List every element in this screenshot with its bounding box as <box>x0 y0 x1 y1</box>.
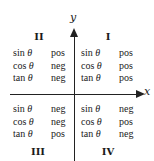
function-name: tan <box>81 128 93 139</box>
function-name: sin <box>13 103 25 114</box>
sign-value: neg <box>119 103 133 116</box>
x-axis-label: x <box>144 85 150 98</box>
theta-symbol: θ <box>29 60 34 71</box>
function-name: cos <box>81 60 94 71</box>
function-name: cos <box>81 116 94 127</box>
theta-symbol: θ <box>96 72 101 83</box>
sign-value: neg <box>51 103 65 116</box>
quadrant-label-ii: II <box>19 31 59 42</box>
quadrant-label-iii: III <box>18 146 58 157</box>
function-name: sin <box>81 47 93 58</box>
theta-symbol: θ <box>95 47 100 58</box>
quadrant-i-row-tan: tan θ pos <box>81 72 133 85</box>
theta-symbol: θ <box>96 128 101 139</box>
quadrant-iv-row-cos: cos θ pos <box>81 116 133 129</box>
theta-symbol: θ <box>27 103 32 114</box>
quadrant-iii-row-sin: sin θ neg <box>13 103 65 116</box>
sign-value: neg <box>51 72 65 85</box>
function-name: sin <box>81 103 93 114</box>
sign-value: neg <box>51 60 65 73</box>
quadrant-iv-row-sin: sin θ neg <box>81 103 133 116</box>
theta-symbol: θ <box>29 116 34 127</box>
sign-value: pos <box>51 47 65 60</box>
y-axis-label: y <box>70 11 76 24</box>
function-name: tan <box>81 72 93 83</box>
sign-value: pos <box>119 72 133 85</box>
quadrant-iii-row-cos: cos θ neg <box>13 116 65 129</box>
function-name: tan <box>13 72 25 83</box>
quadrant-i-table: sin θ pos cos θ pos tan θ pos <box>81 47 133 85</box>
theta-symbol: θ <box>28 72 33 83</box>
sign-value: neg <box>51 116 65 129</box>
y-axis-arrow-icon <box>70 28 78 37</box>
quadrant-label-iv: IV <box>88 146 128 157</box>
quadrant-iii-row-tan: tan θ pos <box>13 128 65 141</box>
quadrant-i-row-cos: cos θ pos <box>81 60 133 73</box>
theta-symbol: θ <box>95 103 100 114</box>
sign-value: neg <box>119 128 133 141</box>
function-name: sin <box>13 47 25 58</box>
function-name: tan <box>13 128 25 139</box>
quadrant-label-i: I <box>88 31 128 42</box>
function-name: cos <box>13 116 26 127</box>
sign-value: pos <box>119 60 133 73</box>
quadrant-ii-row-tan: tan θ neg <box>13 72 65 85</box>
quadrant-ii-table: sin θ pos cos θ neg tan θ neg <box>13 47 65 85</box>
quadrant-iv-table: sin θ neg cos θ pos tan θ neg <box>81 103 133 141</box>
function-name: cos <box>13 60 26 71</box>
sign-value: pos <box>119 47 133 60</box>
theta-symbol: θ <box>27 47 32 58</box>
y-axis <box>74 33 75 161</box>
theta-symbol: θ <box>97 60 102 71</box>
x-axis <box>10 94 140 95</box>
theta-symbol: θ <box>28 128 33 139</box>
quadrant-i-row-sin: sin θ pos <box>81 47 133 60</box>
sign-value: pos <box>119 116 133 129</box>
quadrant-ii-row-cos: cos θ neg <box>13 60 65 73</box>
quadrant-iv-row-tan: tan θ neg <box>81 128 133 141</box>
sign-value: pos <box>51 128 65 141</box>
quadrant-iii-table: sin θ neg cos θ neg tan θ pos <box>13 103 65 141</box>
quadrant-ii-row-sin: sin θ pos <box>13 47 65 60</box>
theta-symbol: θ <box>97 116 102 127</box>
